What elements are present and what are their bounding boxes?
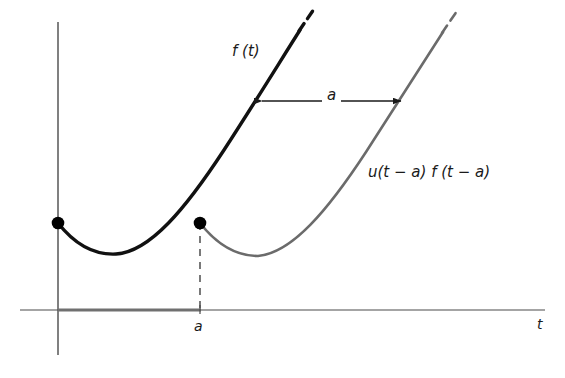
curve-original-ft-dashed-tail [299, 9, 314, 31]
curve-original-ft [58, 30, 300, 254]
curve-label-ft: f (t) [232, 42, 260, 60]
plot-svg [0, 0, 565, 378]
curve-shifted-utaf [200, 32, 443, 256]
x-axis-label: t [537, 316, 543, 332]
curve-label-shifted: u(t − a) f (t − a) [368, 163, 490, 181]
marker-origin-point [52, 217, 65, 230]
shift-measure-label: a [322, 86, 341, 104]
curve-shifted-utaf-dashed-tail [442, 11, 457, 33]
figure-canvas: f (t) u(t − a) f (t − a) a a t [0, 0, 565, 378]
x-tick-label-a: a [194, 318, 203, 334]
marker-shift-point [194, 217, 207, 230]
